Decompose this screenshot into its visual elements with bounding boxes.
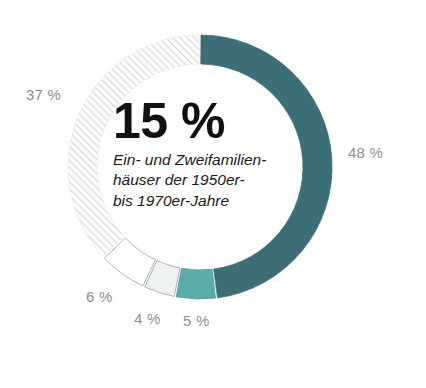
donut-chart: 15 % Ein- und Zweifamilien- häuser der 1… — [0, 0, 426, 388]
donut-slice-37 — [68, 35, 199, 257]
donut-slice-group — [68, 35, 332, 299]
slice-label-5: 5 % — [183, 312, 209, 329]
slice-label-6: 6 % — [86, 288, 112, 305]
slice-label-37: 37 % — [26, 86, 61, 103]
slice-label-48: 48 % — [348, 144, 383, 161]
donut-slice-48 — [201, 35, 332, 298]
donut-slice-5 — [176, 268, 215, 299]
slice-label-4: 4 % — [134, 310, 160, 327]
donut-chart-svg — [0, 0, 426, 388]
